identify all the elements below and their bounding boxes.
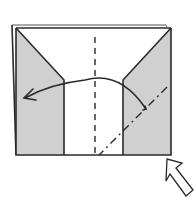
push-arrow-icon <box>166 159 193 196</box>
origami-diagram <box>0 0 195 213</box>
